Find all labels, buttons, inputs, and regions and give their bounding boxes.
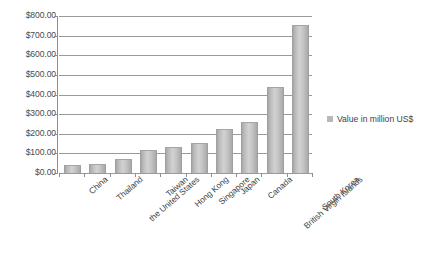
x-tick-label: Thailand bbox=[115, 175, 145, 203]
bar bbox=[216, 129, 233, 173]
y-tick-label: $500.00 bbox=[2, 70, 56, 79]
y-tick-mark bbox=[54, 75, 58, 76]
y-tick-mark bbox=[54, 95, 58, 96]
x-tick-label: China bbox=[87, 175, 109, 196]
legend-label: Value in million US$ bbox=[337, 114, 413, 124]
bar bbox=[64, 165, 81, 173]
bar-chart-figure: $800.00$700.00$600.00$500.00$400.00$300.… bbox=[0, 0, 438, 259]
y-tick-label: $100.00 bbox=[2, 148, 56, 157]
bars-group bbox=[59, 16, 312, 173]
y-axis: $800.00$700.00$600.00$500.00$400.00$300.… bbox=[2, 10, 56, 175]
bar bbox=[89, 164, 106, 173]
plot-area bbox=[59, 16, 312, 173]
bar bbox=[191, 143, 208, 173]
bar bbox=[241, 122, 258, 173]
y-tick-mark bbox=[54, 55, 58, 56]
y-tick-mark bbox=[54, 134, 58, 135]
y-tick-label: $400.00 bbox=[2, 90, 56, 99]
x-tick-label: Canada bbox=[266, 175, 294, 201]
bar bbox=[267, 87, 284, 173]
y-tick-label: $600.00 bbox=[2, 50, 56, 59]
bar bbox=[292, 25, 309, 173]
y-tick-label: $800.00 bbox=[2, 11, 56, 20]
y-tick-mark bbox=[54, 173, 58, 174]
y-tick-mark bbox=[54, 36, 58, 37]
y-tick-label: $700.00 bbox=[2, 31, 56, 40]
y-tick-label: $0.00 bbox=[2, 168, 56, 177]
x-axis: ChinaThailandthe United StatesTaiwanHong… bbox=[59, 175, 319, 255]
bar bbox=[140, 150, 157, 173]
y-tick-mark bbox=[54, 153, 58, 154]
legend-swatch-icon bbox=[327, 116, 333, 122]
y-tick-label: $200.00 bbox=[2, 129, 56, 138]
y-tick-mark bbox=[54, 114, 58, 115]
bar bbox=[115, 159, 132, 173]
legend: Value in million US$ bbox=[327, 114, 413, 124]
y-tick-mark bbox=[54, 16, 58, 17]
y-tick-label: $300.00 bbox=[2, 109, 56, 118]
x-tick-label: South Korea bbox=[321, 175, 362, 212]
bar bbox=[165, 147, 182, 173]
